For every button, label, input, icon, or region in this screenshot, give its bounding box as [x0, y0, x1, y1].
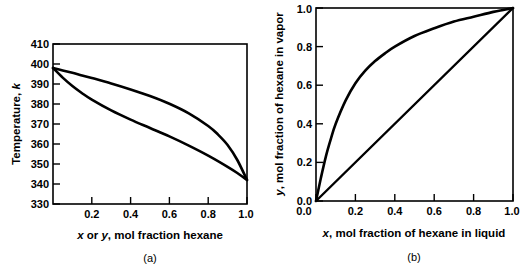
panel-a-y-ticklabels: 330 340 350 360 370 380 390 400 410	[31, 38, 49, 210]
panel-a-xlabel-seg-3: , mol fraction hexane	[108, 229, 223, 241]
panel-b-ytick-0-2: 0.2	[297, 156, 312, 168]
panel-a-y-axis-label: Temperature, k	[10, 83, 22, 165]
panel-a-ytick-350: 350	[31, 158, 49, 170]
panel-a-xtick-1-0: 1.0	[238, 208, 253, 220]
panel-a-ylabel-seg-0: Temperature,	[10, 90, 22, 165]
panel-a-xtick-0-6: 0.6	[162, 208, 177, 220]
panel-b-x-axis-label: x, mol fraction of hexane in liquid	[322, 227, 506, 239]
panel-b-ytick-0-4: 0.4	[297, 118, 313, 130]
panel-a-caption: (a)	[143, 252, 156, 264]
panel-a-txy-diagram: 330 340 350 360 370 380 390 400 410 0.2 …	[0, 0, 264, 269]
panel-b-xtick-0-2: 0.2	[348, 205, 363, 217]
figure-root: 330 340 350 360 370 380 390 400 410 0.2 …	[0, 0, 528, 269]
panel-b-svg: 0.0 0.2 0.4 0.6 0.8 1.0 0.0 0.2 0.4 0.6 …	[264, 0, 528, 269]
panel-b-xtick-1-0: 1.0	[504, 205, 519, 217]
panel-b-ytick-1-0: 1.0	[297, 3, 312, 15]
panel-a-xlabel-seg-1: or	[84, 229, 102, 241]
panel-b-ytick-0-8: 0.8	[297, 41, 312, 53]
panel-b-ytick-0-6: 0.6	[297, 79, 312, 91]
bubble-point-curve	[53, 68, 247, 180]
panel-b-xy-equilibrium-diagram: 0.0 0.2 0.4 0.6 0.8 1.0 0.0 0.2 0.4 0.6 …	[264, 0, 528, 269]
dew-point-curve	[53, 68, 247, 180]
panel-b-ylabel-seg-1: , mol fraction of hexane in vapor	[273, 12, 285, 190]
panel-a-xtick-0-2: 0.2	[84, 208, 99, 220]
panel-a-ytick-380: 380	[31, 98, 49, 110]
panel-a-ytick-390: 390	[31, 78, 49, 90]
panel-a-plot-frame	[53, 44, 247, 204]
panel-b-y-axis-label: y, mol fraction of hexane in vapor	[273, 12, 285, 197]
panel-a-x-ticklabels: 0.2 0.4 0.6 0.8 1.0	[84, 208, 253, 220]
panel-a-ytick-370: 370	[31, 118, 49, 130]
panel-b-xtick-0-0: 0.0	[296, 205, 311, 217]
panel-a-ylabel-seg-1: k	[10, 83, 22, 90]
panel-b-xtick-0-6: 0.6	[427, 205, 442, 217]
panel-a-x-axis-label: x or y, mol fraction hexane	[76, 229, 223, 241]
panel-b-y-ticklabels: 0.0 0.2 0.4 0.6 0.8 1.0	[297, 3, 313, 207]
panel-a-ytick-400: 400	[31, 58, 49, 70]
panel-a-ytick-330: 330	[31, 198, 49, 210]
panel-b-xtick-0-4: 0.4	[387, 205, 403, 217]
panel-b-xtick-0-8: 0.8	[466, 205, 481, 217]
panel-b-x-ticklabels: 0.0 0.2 0.4 0.6 0.8 1.0	[296, 205, 519, 217]
panel-a-ytick-360: 360	[31, 138, 49, 150]
panel-a-xtick-0-8: 0.8	[201, 208, 216, 220]
panel-a-x-ticks	[92, 197, 247, 204]
panel-b-x-ticks	[316, 194, 513, 201]
panel-a-xtick-0-4: 0.4	[123, 208, 139, 220]
panel-b-xlabel-seg-1: , mol fraction of hexane in liquid	[329, 227, 505, 239]
panel-a-ytick-410: 410	[31, 38, 49, 50]
panel-a-svg: 330 340 350 360 370 380 390 400 410 0.2 …	[0, 0, 264, 269]
panel-a-ytick-340: 340	[31, 178, 49, 190]
panel-b-caption: (b)	[407, 251, 420, 263]
